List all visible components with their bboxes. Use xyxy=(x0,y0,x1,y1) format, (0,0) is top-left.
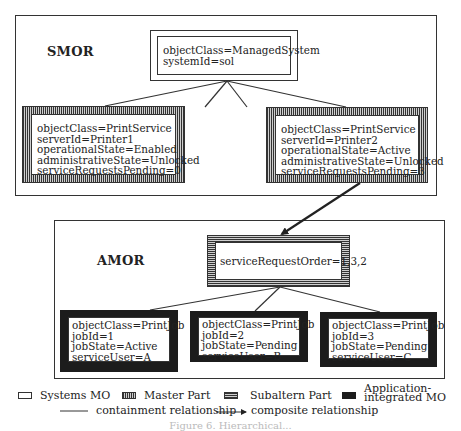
attr-line: serviceRequestsPending=3 xyxy=(281,166,413,177)
legend-master-part: Master Part xyxy=(122,389,210,402)
composite-arrow xyxy=(282,183,360,234)
figure-caption: Figure 6. Hierarchical... xyxy=(0,420,461,431)
attr-line: objectClass=PrintJob xyxy=(332,320,425,331)
print-service-2-mo: objectClass=PrintService serverId=Printe… xyxy=(266,107,428,183)
print-service-1-mo: objectClass=PrintService serverId=Printe… xyxy=(22,106,185,183)
legend-label-group: Application- integrated MO xyxy=(364,384,446,402)
managed-system-mo: objectClass=ManagedSystem systemId=sol xyxy=(150,30,298,81)
print-job-1-mo: objectClass=PrintJob jobId=1 jobState=Ac… xyxy=(60,310,178,372)
print-job-2-mo: objectClass=PrintJob jobId=2 jobState=Pe… xyxy=(190,311,308,362)
subaltern-part-swatch-icon xyxy=(224,392,238,399)
master-part-swatch-icon xyxy=(122,392,136,399)
attr-line: serviceUser=B xyxy=(202,351,296,362)
attr-line: serviceRequestsPending=0 xyxy=(37,165,170,176)
legend-application-integrated-mo: Application- integrated MO xyxy=(342,384,446,402)
legend-label: Subaltern Part xyxy=(250,389,332,402)
attr-line: objectClass=PrintJob xyxy=(72,320,166,331)
legend-subaltern-part: Subaltern Part xyxy=(224,389,332,402)
legend-label: composite relationship xyxy=(251,404,378,417)
attr-line: objectClass=PrintJob xyxy=(202,319,296,330)
print-job-3-mo: objectClass=PrintJob jobId=3 jobState=Pe… xyxy=(320,312,437,367)
attr-line: serviceUser=A xyxy=(72,352,166,363)
legend-label: Systems MO xyxy=(40,389,110,402)
legend-label: containment relationship xyxy=(96,404,236,417)
legend-label: integrated MO xyxy=(364,393,446,402)
attr-line: objectClass=PrintService xyxy=(37,123,170,134)
attr-line: objectClass=ManagedSystem xyxy=(163,45,285,56)
legend-systems-mo: Systems MO xyxy=(18,389,110,402)
service-request-order-mo: serviceRequestOrder=1,3,2 xyxy=(207,235,350,287)
legend-label: Master Part xyxy=(144,389,210,402)
attr-line: serviceUser=C xyxy=(332,352,425,363)
legend-containment: containment relationship xyxy=(96,404,236,417)
legend-composite: composite relationship xyxy=(251,404,378,417)
containment-line xyxy=(227,81,346,107)
containment-line xyxy=(280,287,380,312)
attr-line: serviceRequestOrder=1,3,2 xyxy=(220,256,336,267)
attr-line: systemId=sol xyxy=(163,56,285,67)
app-integrated-swatch-icon xyxy=(342,392,356,399)
attr-line: objectClass=PrintService xyxy=(281,124,413,135)
systems-mo-swatch-icon xyxy=(18,392,32,399)
